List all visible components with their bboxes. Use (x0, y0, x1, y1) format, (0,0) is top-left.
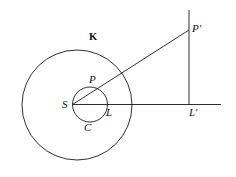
diagram-canvas: S L P C K P' L' (0, 0, 236, 177)
point-label-S: S (62, 99, 68, 110)
point-label-L: L (106, 107, 112, 118)
circle-label-C: C (84, 122, 91, 133)
point-label-P-prime: P' (192, 23, 201, 34)
circle-label-K: K (89, 32, 97, 43)
point-label-P: P (89, 74, 96, 85)
point-label-L-prime: L' (189, 107, 197, 118)
circle-K-outer (22, 50, 132, 160)
